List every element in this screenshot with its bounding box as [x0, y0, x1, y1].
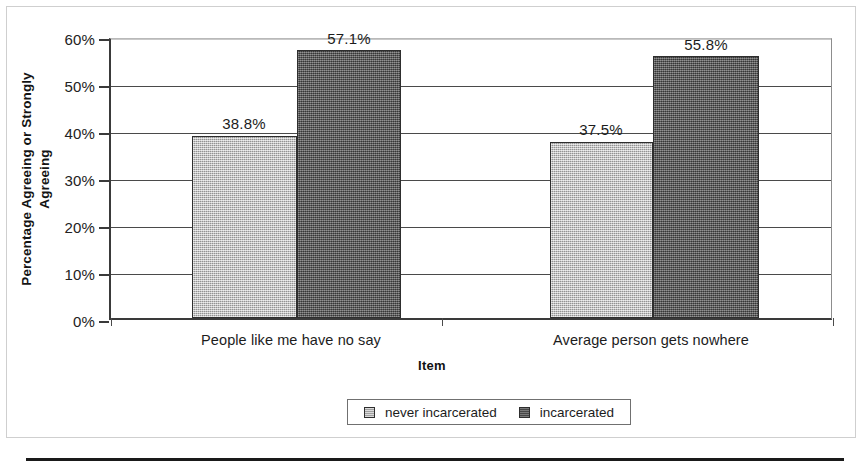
y-tick-20 [99, 227, 109, 229]
page-bottom-rule [26, 458, 844, 461]
x-category-label-1: Average person gets nowhere [553, 332, 749, 348]
bar-value-group1-incarcerated: 55.8% [684, 36, 728, 53]
y-tick-label-50: 50% [64, 78, 95, 95]
y-tick-0 [99, 321, 109, 323]
legend-swatch-icon-incarcerated [519, 407, 530, 418]
x-tick-left [111, 318, 112, 326]
legend-label-never-incarcerated: never incarcerated [385, 405, 497, 420]
y-tick-50 [99, 86, 109, 88]
y-tick-label-60: 60% [64, 31, 95, 48]
x-category-label-0: People like me have no say [201, 332, 381, 348]
legend-item-never-incarcerated[interactable]: never incarcerated [364, 405, 497, 420]
x-axis-title: Item [0, 358, 864, 373]
chart-page: Percentage Agreeing or Strongly Agreeing… [0, 0, 864, 471]
x-tick-middle [442, 318, 443, 326]
bar-value-group0-never-incarcerated: 38.8% [222, 115, 266, 132]
bar-group1-incarcerated[interactable] [653, 56, 759, 318]
y-axis-title: Percentage Agreeing or Strongly Agreeing [14, 38, 58, 320]
bar-group1-never-incarcerated[interactable] [550, 142, 653, 318]
y-tick-label-0: 0% [73, 313, 95, 330]
bar-value-group1-never-incarcerated: 37.5% [579, 121, 623, 138]
y-tick-label-40: 40% [64, 125, 95, 142]
bar-value-group0-incarcerated: 57.1% [327, 30, 371, 47]
y-tick-30 [99, 180, 109, 182]
y-tick-label-20: 20% [64, 219, 95, 236]
y-tick-label-10: 10% [64, 266, 95, 283]
y-axis-title-line-2: Agreeing [36, 72, 54, 285]
plot-area: 60% 50% 40% 30% 20% 10% 0% 38.8% 57.1% 3… [109, 38, 832, 320]
legend-swatch-icon-never-incarcerated [364, 407, 375, 418]
chart-legend: never incarcerated incarcerated [347, 399, 631, 425]
bar-group0-incarcerated[interactable] [297, 50, 401, 318]
y-tick-label-30: 30% [64, 172, 95, 189]
legend-item-incarcerated[interactable]: incarcerated [519, 405, 614, 420]
bar-group0-never-incarcerated[interactable] [192, 136, 297, 318]
y-tick-40 [99, 133, 109, 135]
x-tick-right [833, 318, 834, 326]
y-tick-10 [99, 274, 109, 276]
y-tick-60 [99, 39, 109, 41]
y-axis-title-line-1: Percentage Agreeing or Strongly [18, 72, 36, 285]
legend-label-incarcerated: incarcerated [540, 405, 614, 420]
